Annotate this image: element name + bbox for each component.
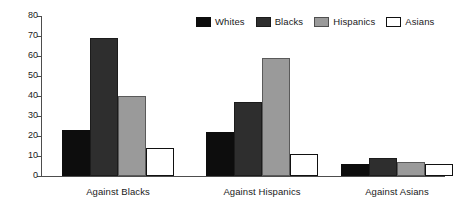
x-axis-category-label: Against Asians <box>341 186 453 197</box>
y-axis-line <box>41 16 42 177</box>
x-axis-baseline <box>41 176 445 177</box>
x-axis-category-label: Against Hispanics <box>206 186 318 197</box>
bar-blacks-against-hispanics <box>234 102 262 176</box>
bar-group <box>62 16 174 176</box>
y-axis-tick-label: 60 <box>28 50 38 61</box>
y-axis-tick-label: 20 <box>28 130 38 141</box>
bar-whites-against-blacks <box>62 130 90 176</box>
bar-chart: Whites Blacks Hispanics Asians 807060504… <box>0 0 459 210</box>
bar-blacks-against-asians <box>369 158 397 176</box>
bar-blacks-against-blacks <box>90 38 118 176</box>
bar-asians-against-asians <box>425 164 453 176</box>
bar-asians-against-blacks <box>146 148 174 176</box>
bar-asians-against-hispanics <box>290 154 318 176</box>
y-axis-tick-label: 40 <box>28 90 38 101</box>
y-axis-tick-label: 50 <box>28 70 38 81</box>
y-axis-tick-label: 80 <box>28 10 38 21</box>
bar-hispanics-against-asians <box>397 162 425 176</box>
y-axis-tick-label: 30 <box>28 110 38 121</box>
y-axis-tick-label: 0 <box>33 170 38 181</box>
bar-group <box>206 16 318 176</box>
y-axis-tick-label: 70 <box>28 30 38 41</box>
bar-group <box>341 16 453 176</box>
bar-whites-against-hispanics <box>206 132 234 176</box>
plot-area: 80706050403020100 <box>41 16 445 177</box>
bar-hispanics-against-hispanics <box>262 58 290 176</box>
x-axis-category-label: Against Blacks <box>62 186 174 197</box>
bar-whites-against-asians <box>341 164 369 176</box>
bar-hispanics-against-blacks <box>118 96 146 176</box>
y-axis-tick-label: 10 <box>28 150 38 161</box>
